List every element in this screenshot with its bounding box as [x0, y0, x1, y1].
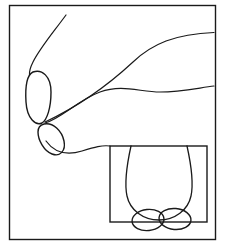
line-art-illustration — [0, 0, 225, 250]
figure-root: ANATOMICAL DIAGRAM — [0, 0, 225, 250]
canvas-background — [0, 0, 225, 250]
